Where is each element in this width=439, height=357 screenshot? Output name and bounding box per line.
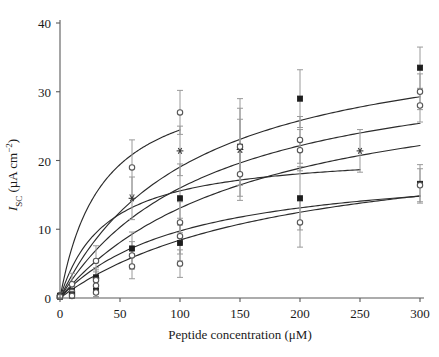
chart-canvas: 050100150200250300 010203040 Peptide con… — [0, 0, 439, 357]
marker-filled-square — [297, 96, 302, 101]
y-axis-title-exponent: −2 — [4, 143, 14, 153]
x-tick-label-300: 300 — [410, 306, 430, 321]
y-axis-ticks — [56, 23, 60, 298]
marker-filled-square — [417, 65, 422, 70]
marker-filled-square — [297, 196, 302, 201]
marker-open-circle — [177, 220, 182, 225]
marker-open-circle — [93, 277, 98, 282]
x-tick-label-0: 0 — [57, 306, 64, 321]
marker-open-circle — [417, 89, 422, 94]
marker-open-circle — [237, 144, 242, 149]
y-axis-title-units: (µA cm — [5, 153, 20, 196]
x-tick-label-150: 150 — [230, 306, 250, 321]
x-tick-label-250: 250 — [350, 306, 370, 321]
y-axis-title-subscript: SC — [14, 196, 24, 207]
svg-text:ISC (µA cm−2): ISC (µA cm−2) — [4, 139, 24, 212]
x-tick-label-50: 50 — [114, 306, 127, 321]
figure-panel: 050100150200250300 010203040 Peptide con… — [0, 0, 439, 357]
marker-open-circle — [93, 258, 98, 263]
x-axis-ticks — [60, 298, 420, 302]
y-tick-label-0: 0 — [45, 291, 52, 306]
marker-open-circle — [417, 103, 422, 108]
marker-open-circle — [297, 147, 302, 152]
marker-open-circle — [177, 261, 182, 266]
x-axis-tick-labels: 050100150200250300 — [57, 306, 430, 321]
marker-open-circle — [417, 183, 422, 188]
marker-open-circle — [93, 283, 98, 288]
y-tick-label-20: 20 — [38, 154, 51, 169]
x-tick-label-100: 100 — [170, 306, 190, 321]
y-tick-label-30: 30 — [38, 85, 51, 100]
x-tick-label-200: 200 — [290, 306, 310, 321]
marker-open-circle — [129, 264, 134, 269]
marker-open-circle — [177, 233, 182, 238]
curve-series-2-asterisk-saturating-early — [60, 170, 360, 298]
y-tick-label-40: 40 — [38, 16, 51, 31]
y-axis-tick-labels: 010203040 — [38, 16, 51, 306]
marker-open-circle — [237, 172, 242, 177]
marker-filled-square — [129, 246, 134, 251]
marker-open-circle — [297, 220, 302, 225]
marker-open-circle — [177, 110, 182, 115]
y-axis-title: ISC (µA cm−2) — [4, 139, 24, 212]
y-axis-title-paren: ) — [5, 139, 20, 143]
y-tick-label-10: 10 — [38, 222, 51, 237]
marker-open-circle — [69, 282, 74, 287]
marker-open-circle — [93, 290, 98, 295]
marker-filled-square — [177, 240, 182, 245]
marker-open-circle — [129, 165, 134, 170]
marker-open-circle — [297, 137, 302, 142]
marker-filled-square — [177, 196, 182, 201]
x-axis-title: Peptide concentration (μM) — [168, 327, 311, 342]
marker-open-circle — [129, 253, 134, 258]
